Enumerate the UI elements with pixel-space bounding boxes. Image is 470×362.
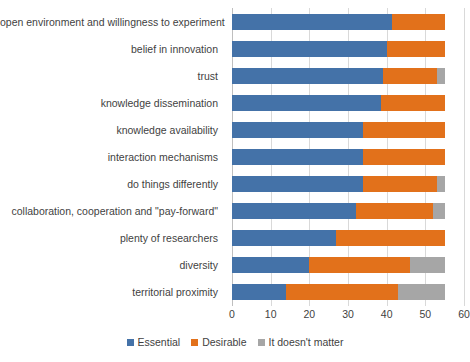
bar-row — [232, 284, 464, 300]
category-label: collaboration, cooperation and "pay-forw… — [0, 203, 224, 219]
gridline-60 — [464, 8, 465, 306]
category-label: knowledge dissemination — [0, 95, 224, 111]
bar-segment-essential — [232, 149, 363, 165]
bar-segment-desirable — [363, 176, 436, 192]
legend-swatch-icon — [258, 339, 265, 346]
bar-segment-desirable — [356, 203, 433, 219]
stacked-bar-chart: open environment and willingness to expe… — [0, 0, 470, 362]
bar-segment-desirable — [309, 257, 410, 273]
bar-segment-essential — [232, 284, 286, 300]
bar-row — [232, 203, 464, 219]
category-axis-labels: open environment and willingness to expe… — [0, 8, 224, 306]
x-tick-label: 60 — [458, 308, 470, 320]
bar-segment-desirable — [392, 14, 444, 30]
bar-segment-it-doesn-t-matter — [410, 257, 445, 273]
legend-label: Desirable — [202, 336, 246, 348]
bar-segment-it-doesn-t-matter — [398, 284, 444, 300]
category-label: interaction mechanisms — [0, 149, 224, 165]
bar-segment-desirable — [387, 41, 445, 57]
bar-segment-desirable — [363, 149, 444, 165]
bar-segment-essential — [232, 176, 363, 192]
category-label: knowledge availability — [0, 122, 224, 138]
bar-segment-essential — [232, 41, 387, 57]
plot-area — [232, 8, 464, 306]
legend-label: Essential — [138, 336, 181, 348]
bar-segment-essential — [232, 230, 336, 246]
x-tick-label: 10 — [265, 308, 277, 320]
legend-label: It doesn't matter — [269, 336, 344, 348]
x-tick-label: 20 — [303, 308, 315, 320]
category-label: plenty of researchers — [0, 230, 224, 246]
x-tick-label: 30 — [342, 308, 354, 320]
category-label: open environment and willingness to expe… — [0, 14, 224, 30]
category-label: do things differently — [0, 176, 224, 192]
bar-row — [232, 122, 464, 138]
bar-row — [232, 230, 464, 246]
category-label: trust — [0, 68, 224, 84]
bar-row — [232, 95, 464, 111]
bar-row — [232, 68, 464, 84]
bar-segment-desirable — [381, 95, 445, 111]
bar-segment-essential — [232, 68, 383, 84]
bar-segment-essential — [232, 95, 381, 111]
bar-segment-essential — [232, 122, 363, 138]
legend-swatch-icon — [191, 339, 198, 346]
bar-segment-desirable — [286, 284, 398, 300]
legend-item[interactable]: It doesn't matter — [258, 336, 344, 348]
value-axis-labels: 0102030405060 — [232, 306, 464, 324]
bar-row — [232, 149, 464, 165]
category-label: diversity — [0, 257, 224, 273]
x-tick-label: 50 — [419, 308, 431, 320]
chart-legend: EssentialDesirableIt doesn't matter — [0, 336, 470, 348]
bar-segment-desirable — [363, 122, 444, 138]
bar-rows — [232, 8, 464, 306]
bar-segment-desirable — [336, 230, 444, 246]
bar-segment-essential — [232, 257, 309, 273]
bar-segment-desirable — [383, 68, 437, 84]
bar-row — [232, 14, 464, 30]
x-tick-label: 0 — [229, 308, 235, 320]
legend-item[interactable]: Essential — [127, 336, 181, 348]
bar-segment-essential — [232, 14, 392, 30]
bar-row — [232, 176, 464, 192]
x-tick-label: 40 — [381, 308, 393, 320]
bar-row — [232, 257, 464, 273]
category-label: belief in innovation — [0, 41, 224, 57]
category-label: territorial proximity — [0, 284, 224, 300]
bar-segment-it-doesn-t-matter — [437, 68, 445, 84]
legend-swatch-icon — [127, 339, 134, 346]
legend-item[interactable]: Desirable — [191, 336, 246, 348]
bar-segment-it-doesn-t-matter — [437, 176, 445, 192]
bar-segment-it-doesn-t-matter — [433, 203, 445, 219]
bar-row — [232, 41, 464, 57]
bar-segment-essential — [232, 203, 356, 219]
